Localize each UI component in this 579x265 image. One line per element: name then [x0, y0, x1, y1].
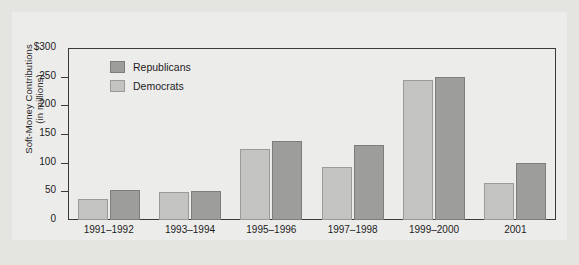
bar-republicans [110, 190, 140, 220]
legend-item-label: Democrats [133, 80, 184, 92]
y-axis-tick-label: 0 [50, 213, 56, 224]
y-axis-tick-mark [61, 163, 68, 164]
legend-swatch-icon [110, 61, 125, 73]
y-axis-tick-label: 150 [39, 127, 56, 138]
bar-chart: Soft-Money Contributions (in millions) $… [0, 0, 579, 265]
bar-democrats [240, 149, 270, 220]
bar-group [401, 48, 467, 220]
bar-group [482, 48, 548, 220]
bar-republicans [516, 163, 546, 220]
legend-item: Republicans [110, 58, 240, 75]
y-axis-tick-label: 250 [39, 70, 56, 81]
bar-republicans [272, 141, 302, 220]
y-axis-tick-label: 100 [39, 156, 56, 167]
bar-group [320, 48, 386, 220]
bar-republicans [354, 145, 384, 220]
x-axis-tick-label: 2001 [467, 224, 563, 235]
y-axis-tick-mark [61, 134, 68, 135]
bar-democrats [484, 183, 514, 220]
y-axis-tick-label: 50 [45, 184, 56, 195]
bar-democrats [322, 167, 352, 220]
y-axis-tick-mark [61, 191, 68, 192]
legend-item-label: Republicans [133, 61, 191, 73]
legend-item: Democrats [110, 77, 240, 94]
bar-republicans [435, 77, 465, 220]
bar-group [238, 48, 304, 220]
y-axis-tick-mark [61, 105, 68, 106]
x-axis: 1991–19921993–19941995–19961997–19981999… [68, 224, 556, 242]
bar-republicans [191, 191, 221, 220]
y-axis-tick-mark [61, 77, 68, 78]
bar-democrats [159, 192, 189, 220]
y-axis-tick-label: $300 [34, 41, 56, 52]
bar-democrats [78, 199, 108, 220]
chart-legend: RepublicansDemocrats [110, 58, 240, 96]
y-axis-tick-label: 200 [39, 98, 56, 109]
legend-swatch-icon [110, 80, 125, 92]
bar-democrats [403, 80, 433, 220]
